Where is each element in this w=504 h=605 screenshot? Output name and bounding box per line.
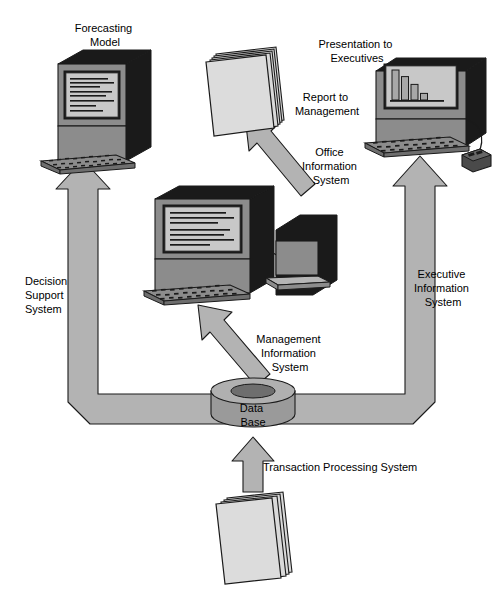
chart-bar — [392, 70, 399, 100]
transaction-document-stack — [216, 492, 292, 584]
label-transaction-processing-system: Transaction Processing System — [263, 461, 417, 473]
chart-bar — [402, 77, 409, 100]
report-document-stack — [206, 47, 284, 136]
information-systems-diagram: Forecasting Model Presentation to Execut… — [0, 0, 504, 605]
chart-bar — [421, 93, 428, 100]
diagram-canvas: Forecasting Model Presentation to Execut… — [0, 0, 504, 605]
forecasting-model-computer — [41, 50, 151, 174]
chart-bar — [411, 84, 418, 100]
